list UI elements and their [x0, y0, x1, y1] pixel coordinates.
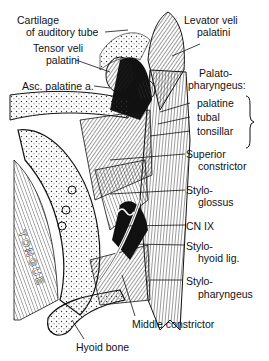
label-middle-constrictor: Middle constrictor: [132, 318, 214, 330]
label-levator-palatini: palatini: [197, 26, 230, 38]
brace: [246, 96, 254, 148]
label-palato: Palato-: [199, 67, 232, 79]
label-stylo-glossus-1: Stylo-: [186, 184, 213, 196]
label-stylopharyngeus-1: Stylo-: [186, 275, 213, 287]
label-superior: Superior: [186, 148, 226, 160]
label-stylohyoid-2: hyoid lig.: [198, 252, 239, 264]
label-pharyngeus: pharyngeus:: [188, 79, 246, 91]
label-tensor-veli: Tensor veli: [33, 42, 83, 54]
hyoid-bone: [48, 290, 125, 335]
anatomical-illustration: TONGUE: [0, 0, 269, 361]
label-stylopharyngeus-2: pharyngeus: [198, 288, 253, 300]
label-palatine: palatine: [197, 97, 234, 109]
label-tubal: tubal: [197, 111, 220, 123]
torus-oval: [137, 80, 155, 100]
label-cartilage: Cartilage: [17, 14, 59, 26]
label-stylohyoid-1: Stylo-: [186, 240, 213, 252]
label-constrictor: constrictor: [198, 160, 246, 172]
label-stylo-glossus-2: glossus: [198, 196, 234, 208]
label-asc-palatine: Asc. palatine a.: [22, 80, 94, 92]
label-tonsillar: tonsillar: [197, 125, 233, 137]
label-cn-ix: CN IX: [186, 220, 214, 232]
label-auditory-tube: of auditory tube: [26, 26, 98, 38]
label-levator-veli: Levator veli: [184, 14, 238, 26]
label-hyoid-bone: Hyoid bone: [76, 341, 129, 353]
label-tensor-palatini: palatini: [46, 54, 79, 66]
